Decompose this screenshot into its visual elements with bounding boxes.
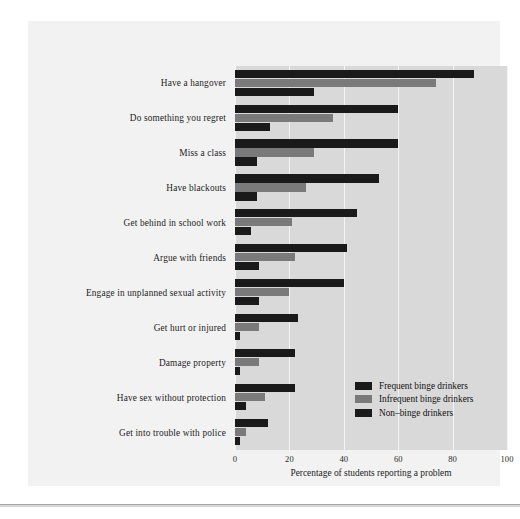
bar-2 — [235, 402, 246, 410]
bar-2 — [235, 437, 240, 445]
bar-1 — [235, 253, 295, 261]
category-label: Miss a class — [179, 148, 226, 158]
x-tick-label: 40 — [340, 454, 349, 464]
bar-1 — [235, 358, 259, 366]
category-label: Damage property — [159, 358, 226, 368]
chart-category-row: Damage property — [235, 345, 507, 380]
bar-2 — [235, 367, 240, 375]
bar-1 — [235, 183, 306, 191]
bar-0 — [235, 244, 347, 252]
bar-0 — [235, 384, 295, 392]
category-label: Engage in unplanned sexual activity — [86, 288, 226, 298]
chart-category-row: Have a hangover — [235, 66, 507, 101]
category-label: Get into trouble with police — [119, 428, 226, 438]
bar-2 — [235, 332, 240, 340]
x-tick-label: 60 — [394, 454, 403, 464]
legend-swatch-icon — [355, 395, 372, 403]
bar-0 — [235, 314, 298, 322]
page-bottom-rule — [0, 504, 520, 507]
gridline-100 — [507, 66, 508, 450]
bar-2 — [235, 88, 314, 96]
chart-category-row: Argue with friends — [235, 241, 507, 276]
x-axis-title: Percentage of students reporting a probl… — [235, 468, 507, 478]
bar-1 — [235, 393, 265, 401]
bar-0 — [235, 209, 357, 217]
bar-1 — [235, 218, 292, 226]
legend-swatch-icon — [355, 382, 372, 390]
x-tick-label: 20 — [285, 454, 294, 464]
chart-legend: Frequent binge drinkersInfrequent binge … — [355, 379, 474, 420]
category-label: Have blackouts — [166, 183, 226, 193]
chart-category-row: Have blackouts — [235, 171, 507, 206]
bar-0 — [235, 139, 398, 147]
bar-1 — [235, 288, 289, 296]
bar-1 — [235, 323, 259, 331]
legend-item: Infrequent binge drinkers — [355, 393, 474, 407]
bar-1 — [235, 114, 333, 122]
legend-label: Frequent binge drinkers — [379, 381, 468, 391]
category-label: Get hurt or injured — [154, 323, 226, 333]
legend-item: Frequent binge drinkers — [355, 379, 474, 393]
bar-0 — [235, 70, 474, 78]
bar-0 — [235, 105, 398, 113]
bar-0 — [235, 279, 344, 287]
chart-category-row: Miss a class — [235, 136, 507, 171]
bar-2 — [235, 123, 270, 131]
chart-category-row: Get hurt or injured — [235, 310, 507, 345]
bar-0 — [235, 349, 295, 357]
chart-category-row: Get behind in school work — [235, 206, 507, 241]
bar-2 — [235, 262, 259, 270]
category-label: Have sex without protection — [117, 393, 226, 403]
legend-item: Non–binge drinkers — [355, 406, 474, 420]
bar-0 — [235, 419, 268, 427]
bar-2 — [235, 192, 257, 200]
figure-frame: Have a hangoverDo something you regretMi… — [28, 21, 500, 486]
bar-2 — [235, 157, 257, 165]
bar-0 — [235, 174, 379, 182]
category-label: Argue with friends — [153, 253, 226, 263]
bar-2 — [235, 227, 251, 235]
x-tick-label: 0 — [233, 454, 237, 464]
bar-1 — [235, 79, 436, 87]
legend-label: Non–binge drinkers — [379, 408, 453, 418]
chart-category-row: Do something you regret — [235, 101, 507, 136]
category-label: Do something you regret — [130, 113, 226, 123]
legend-swatch-icon — [355, 409, 372, 417]
chart-category-row: Get into trouble with police — [235, 415, 507, 450]
x-tick-label: 80 — [448, 454, 457, 464]
chart-category-row: Engage in unplanned sexual activity — [235, 275, 507, 310]
bar-1 — [235, 148, 314, 156]
bar-1 — [235, 428, 246, 436]
bar-2 — [235, 297, 259, 305]
x-tick-label: 100 — [501, 454, 514, 464]
legend-label: Infrequent binge drinkers — [379, 394, 474, 404]
category-label: Get behind in school work — [124, 218, 226, 228]
category-label: Have a hangover — [161, 78, 226, 88]
